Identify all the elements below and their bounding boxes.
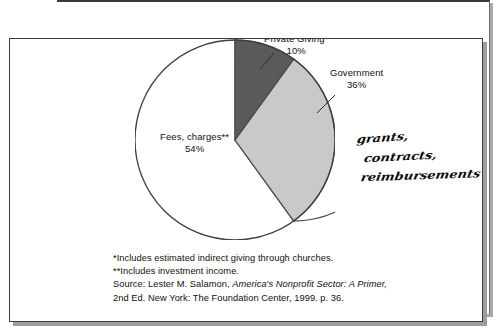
source-title: America's Nonprofit Sector: A Primer,	[232, 279, 387, 289]
pie-label-fees: Fees, charges** 54%	[160, 131, 229, 154]
pie-label-fees-name: Fees, charges**	[160, 131, 229, 143]
pie-label-fees-pct: 54%	[160, 143, 229, 155]
pie-label-private-giving-name: Private Giving*	[264, 38, 328, 45]
figure-footnotes: *Includes estimated indirect giving thro…	[113, 252, 387, 305]
figure-page-sheet: Private Giving* 10% Government 36% Fees,…	[9, 38, 483, 322]
pie-label-government: Government 36%	[330, 67, 383, 90]
source-line-2: 2nd Ed. New York: The Foundation Center,…	[113, 292, 387, 305]
pie-label-private-giving-pct: 10%	[264, 45, 328, 57]
footnote-double-asterisk: **Includes investment income.	[113, 265, 387, 278]
scanned-page-background: Private Giving* 10% Government 36% Fees,…	[0, 0, 501, 333]
handwritten-annotation-line-3: reimbursements	[360, 167, 482, 184]
handwritten-annotation-line-2: contracts,	[363, 148, 438, 165]
pie-label-government-name: Government	[330, 67, 383, 79]
handwritten-annotation-line-1: grants,	[356, 129, 409, 146]
footnote-asterisk: *Includes estimated indirect giving thro…	[113, 252, 387, 265]
source-prefix: Source: Lester M. Salamon,	[113, 279, 232, 289]
pie-label-private-giving: Private Giving* 10%	[264, 38, 328, 56]
source-line-1: Source: Lester M. Salamon, America's Non…	[113, 278, 387, 291]
pie-label-government-pct: 36%	[330, 79, 383, 91]
